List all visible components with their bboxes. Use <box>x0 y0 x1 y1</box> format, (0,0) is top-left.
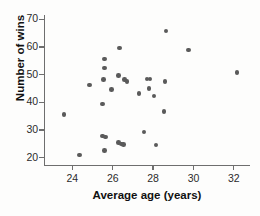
y-tick-label-60: 60 <box>27 40 38 52</box>
x-tick-label-28: 28 <box>141 172 165 184</box>
data-point <box>100 134 105 139</box>
x-tick-30 <box>193 165 194 170</box>
x-tick-28 <box>152 165 153 170</box>
y-tick-50 <box>39 74 44 75</box>
y-tick-70 <box>39 19 44 20</box>
y-axis-title: Number of wins <box>14 0 26 118</box>
data-point <box>154 143 159 148</box>
y-tick-label-30: 30 <box>27 123 38 135</box>
data-point <box>116 73 121 78</box>
data-point <box>121 142 126 147</box>
data-point <box>62 112 67 117</box>
data-point <box>102 66 107 71</box>
x-tick-26 <box>112 165 113 170</box>
data-point <box>102 57 107 62</box>
data-point <box>163 79 168 84</box>
x-tick-label-32: 32 <box>222 172 246 184</box>
data-point <box>142 130 147 135</box>
data-point <box>101 77 106 82</box>
x-axis-title: Average age (years) <box>44 189 250 201</box>
data-point <box>137 91 142 96</box>
x-tick-label-24: 24 <box>60 172 84 184</box>
data-point <box>77 153 82 158</box>
y-tick-label-70: 70 <box>27 12 38 24</box>
data-point <box>162 109 167 114</box>
data-point <box>119 142 124 147</box>
data-point <box>109 87 114 92</box>
x-tick-label-26: 26 <box>101 172 125 184</box>
data-point <box>116 140 121 145</box>
y-tick-20 <box>39 157 44 158</box>
data-point <box>186 48 191 53</box>
y-tick-label-40: 40 <box>27 95 38 107</box>
y-axis-line <box>44 15 45 165</box>
data-point <box>164 29 169 34</box>
y-tick-60 <box>39 46 44 47</box>
x-axis-line <box>44 165 250 166</box>
y-tick-30 <box>39 129 44 130</box>
data-point <box>235 70 240 75</box>
data-point <box>148 77 153 82</box>
data-point <box>100 102 105 107</box>
data-point <box>117 46 122 51</box>
y-tick-label-50: 50 <box>27 68 38 80</box>
data-point <box>103 135 108 140</box>
data-point <box>145 77 150 82</box>
data-point <box>87 83 92 88</box>
y-tick-40 <box>39 102 44 103</box>
data-point <box>122 77 127 82</box>
data-point <box>152 94 157 99</box>
data-point <box>102 148 107 153</box>
y-tick-label-20: 20 <box>27 151 38 163</box>
scatter-plot: 203040506070 2426283032 Number of wins A… <box>0 0 260 216</box>
x-tick-label-30: 30 <box>181 172 205 184</box>
x-tick-24 <box>72 165 73 170</box>
x-tick-32 <box>233 165 234 170</box>
data-point <box>125 79 130 84</box>
data-point <box>147 86 152 91</box>
